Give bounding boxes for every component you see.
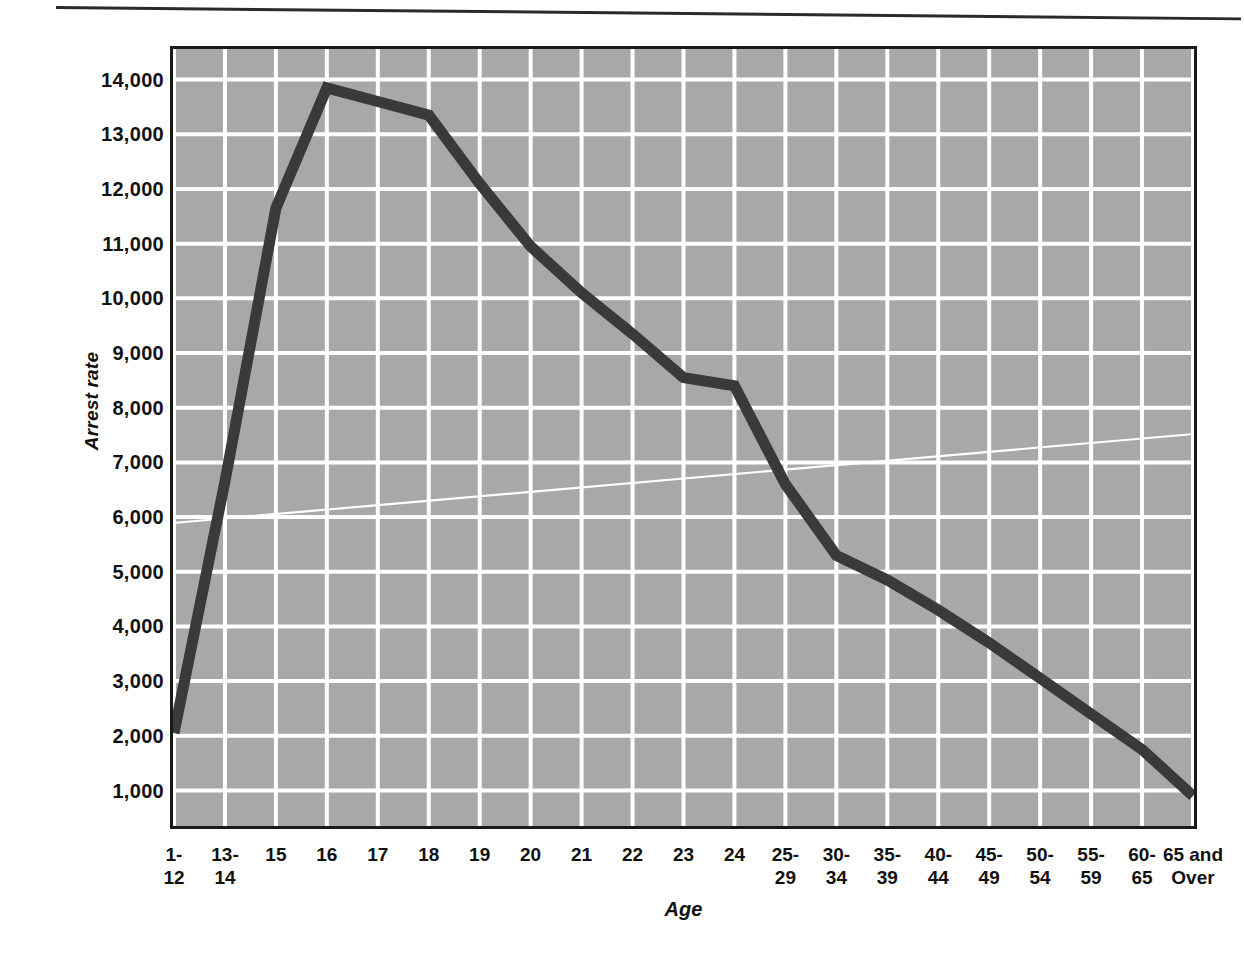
chart-figure: Arrest rate 1,0002,0003,0004,0005,0006,0…	[0, 0, 1244, 954]
y-axis-tick-labels: 1,0002,0003,0004,0005,0006,0007,0008,000…	[60, 0, 164, 954]
y-tick-label: 4,000	[60, 615, 164, 638]
arrest-rate-line-series	[173, 49, 1194, 826]
y-tick-label: 14,000	[60, 68, 164, 91]
y-tick-label: 2,000	[60, 724, 164, 747]
y-tick-label: 10,000	[60, 287, 164, 310]
x-axis-title: Age	[170, 898, 1197, 921]
top-divider-rule	[56, 6, 1241, 20]
y-tick-label: 12,000	[60, 178, 164, 201]
y-tick-label: 8,000	[60, 396, 164, 419]
y-tick-label: 3,000	[60, 670, 164, 693]
y-tick-label: 7,000	[60, 451, 164, 474]
y-tick-label: 13,000	[60, 123, 164, 146]
y-tick-label: 1,000	[60, 779, 164, 802]
y-tick-label: 5,000	[60, 560, 164, 583]
plot-area	[170, 46, 1197, 829]
x-tick-label: 65 andOver	[1145, 843, 1241, 889]
y-tick-label: 9,000	[60, 342, 164, 365]
y-tick-label: 11,000	[60, 232, 164, 255]
y-tick-label: 6,000	[60, 506, 164, 529]
